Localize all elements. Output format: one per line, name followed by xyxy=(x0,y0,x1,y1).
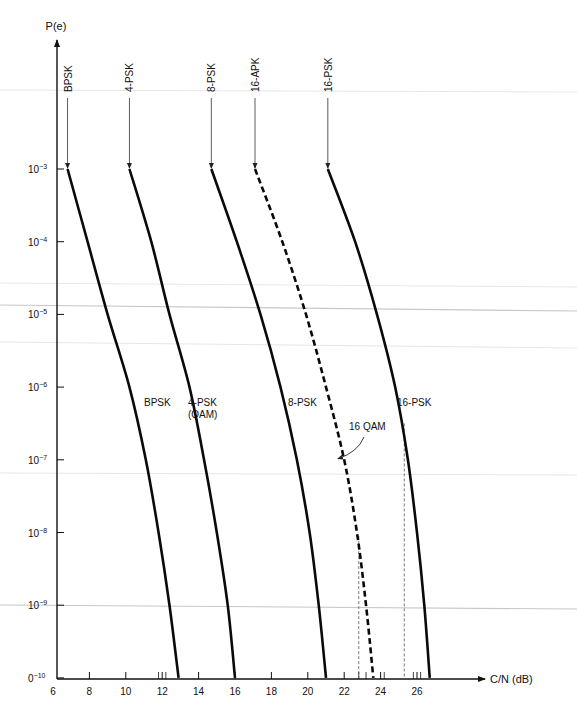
chart: P(e)C/N (dB)10−310−410−510−610−710−810−9… xyxy=(0,0,577,712)
y-tick-label: 10−4 xyxy=(28,236,47,248)
x-tick-label: 12 xyxy=(157,686,169,697)
x-tick-label: 16 xyxy=(229,686,241,697)
annotation-16qam: 16 QAM xyxy=(349,421,386,432)
x-tick-label: 6 xyxy=(50,686,56,697)
x-tick-label: 8 xyxy=(87,686,93,697)
x-tick-label: 22 xyxy=(339,686,351,697)
y-tick-label: 10−5 xyxy=(28,308,47,320)
top-label-4-psk-qam: 4-PSK xyxy=(124,63,135,92)
mid-label-4-psk-qam: 4-PSK xyxy=(188,397,217,408)
reference-lines xyxy=(359,423,405,677)
y-tick-label: 10−6 xyxy=(28,381,47,393)
y-tick-label: 10−9 xyxy=(28,599,47,611)
y-axis-title: P(e) xyxy=(46,20,67,32)
top-label-8-psk: 8-PSK xyxy=(206,63,217,92)
axes: P(e)C/N (dB)10−310−410−510−610−710−810−9… xyxy=(28,20,533,697)
x-axis-title: C/N (dB) xyxy=(490,673,533,685)
y-tick-label: 0−10 xyxy=(28,672,46,684)
y-tick-label: 10−3 xyxy=(28,163,47,175)
x-tick-label: 10 xyxy=(120,686,132,697)
curve-4-psk-qam xyxy=(129,169,235,678)
y-tick-label: 10−7 xyxy=(28,454,47,466)
x-tick-label: 18 xyxy=(266,686,278,697)
y-tick-label: 10−8 xyxy=(28,527,47,539)
labels: BPSKBPSK4-PSK4-PSK(QAM)8-PSK8-PSK16-APK1… xyxy=(63,57,432,459)
x-tick-label: 24 xyxy=(375,686,387,697)
curve-bpsk xyxy=(68,169,179,678)
x-tick-label: 20 xyxy=(302,686,314,697)
annotation-arrow xyxy=(338,437,364,459)
x-tick-label: 14 xyxy=(193,686,205,697)
top-label-bpsk: BPSK xyxy=(63,65,74,92)
mid-label-bpsk: BPSK xyxy=(144,397,171,408)
top-label-16-psk: 16-PSK xyxy=(323,57,334,92)
x-tick-label: 26 xyxy=(411,686,423,697)
scan-artifacts xyxy=(0,90,577,609)
mid-label-16-psk: 16-PSK xyxy=(397,397,432,408)
top-label-16-apk-16-qam: 16-APK xyxy=(250,57,261,92)
mid-label-4-psk-qam: (QAM) xyxy=(188,409,217,420)
mid-label-8-psk: 8-PSK xyxy=(288,397,317,408)
